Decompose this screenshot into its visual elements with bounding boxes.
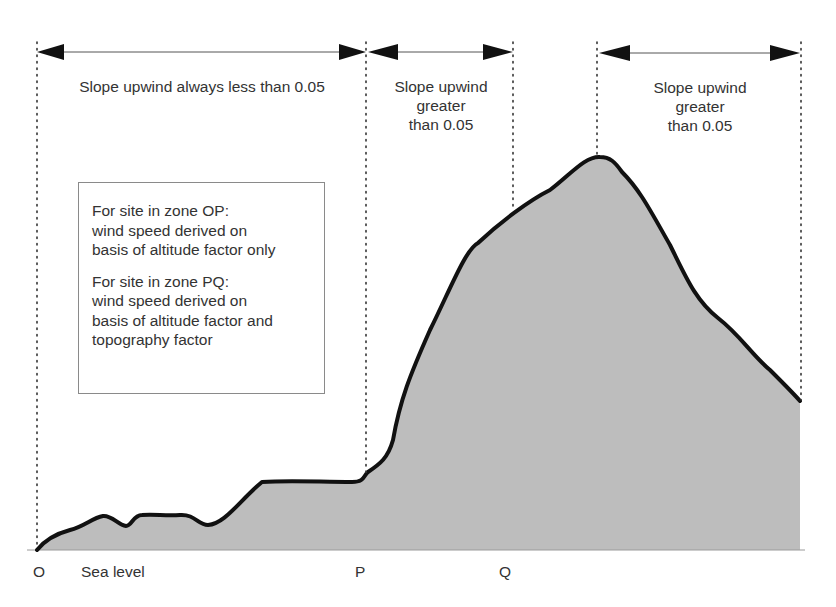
zone-label-pq: Slope upwind greater than 0.05 [370,77,512,134]
arrowhead-right-icon [339,44,366,60]
arrowhead-left-icon [37,44,64,60]
zone-label-crest: Slope upwind greater than 0.05 [600,78,800,135]
zone-arrow-crest [599,45,800,61]
zone-label-line: greater [600,97,800,116]
note-line: wind speed derived on [92,292,247,309]
arrowhead-left-icon [368,44,398,60]
zone-label-line: than 0.05 [370,115,512,134]
sea-level-label: Sea level [81,563,145,581]
note-line: topography factor [92,331,213,348]
zone-arrow-pq [368,44,513,60]
zone-label-line: Slope upwind [600,78,800,97]
arrowhead-right-icon [770,45,800,61]
zone-label-line: greater [370,96,512,115]
point-label-p: P [355,563,365,581]
note-line: For site in zone PQ: [92,273,229,290]
zone-label-op: Slope upwind always less than 0.05 [40,77,364,96]
note-op: For site in zone OP: wind speed derived … [92,201,324,260]
point-label-o: O [33,563,45,581]
point-label-q: Q [499,563,511,581]
zone-label-op-text: Slope upwind always less than 0.05 [79,78,325,95]
note-line: basis of altitude factor and [92,312,273,329]
arrowhead-left-icon [599,45,630,61]
zone-arrow-op [37,44,366,60]
note-box: For site in zone OP: wind speed derived … [78,182,325,394]
note-line: basis of altitude factor only [92,241,276,258]
zone-label-line: than 0.05 [600,116,800,135]
zone-label-line: Slope upwind [370,77,512,96]
note-pq: For site in zone PQ: wind speed derived … [92,272,324,350]
note-line: wind speed derived on [92,222,247,239]
note-line: For site in zone OP: [92,202,229,219]
arrowhead-right-icon [483,44,513,60]
